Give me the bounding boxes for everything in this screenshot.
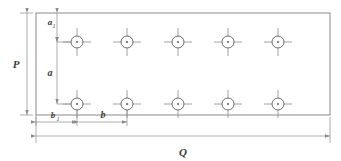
hole — [214, 90, 242, 118]
dimension-label-b: b — [101, 109, 106, 120]
dimension-b1: b 1 — [36, 110, 77, 126]
dimension-label-a1-subscript: 1 — [53, 23, 56, 29]
hole-row-top — [63, 28, 292, 56]
dimension-label-Q: Q — [179, 146, 187, 158]
dimension-a1: a 1 — [48, 13, 71, 42]
hole — [113, 28, 141, 56]
hole-center-dot — [227, 103, 229, 105]
dimension-b: b — [79, 109, 127, 126]
dimension-label-a: a — [48, 67, 53, 78]
dimension-label-P: P — [13, 58, 20, 70]
hole-center-dot — [76, 103, 78, 105]
hole-center-dot — [277, 41, 279, 43]
dimension-label-b1: b — [51, 110, 56, 120]
dimension-drawing: P Q a 1 a b 1 — [0, 0, 341, 161]
drawing-canvas: P Q a 1 a b 1 — [0, 0, 341, 161]
hole-center-dot — [177, 103, 179, 105]
hole-center-dot — [126, 41, 128, 43]
hole — [264, 90, 292, 118]
hole — [164, 90, 192, 118]
dimension-label-b1-subscript: 1 — [57, 116, 60, 122]
dimension-P: P — [13, 13, 33, 115]
hole-center-dot — [277, 103, 279, 105]
dimension-Q: Q — [36, 117, 330, 158]
hole-row-bottom — [63, 90, 292, 118]
dimension-a: a — [48, 42, 72, 104]
hole-center-dot — [76, 41, 78, 43]
hole — [264, 28, 292, 56]
hole-center-dot — [177, 41, 179, 43]
hole-center-dot — [126, 103, 128, 105]
hole-center-dot — [227, 41, 229, 43]
hole — [164, 28, 192, 56]
hole — [214, 28, 242, 56]
